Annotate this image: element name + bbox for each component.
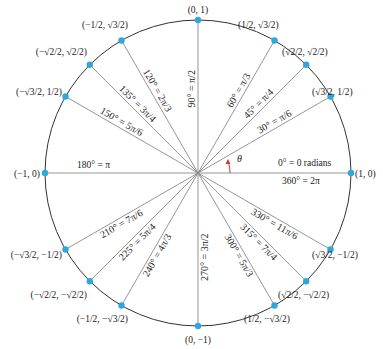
angle-label-45: 45° = π/4 [241,86,275,120]
point-270 [195,323,201,329]
point-210 [62,246,68,252]
coord-label-225: (−√2/2, −√2/2) [31,290,88,301]
point-225 [87,278,93,284]
coord-label-30: (√3/2, 1/2) [312,87,353,98]
ray-45 [198,65,306,173]
coord-label-300: (1/2, −√3/2) [244,314,290,325]
coord-label-270: (0, −1) [185,335,211,346]
point-45 [303,62,309,68]
point-0 [348,170,354,176]
coord-label-120: (−1/2, √3/2) [82,20,128,31]
label-0-degrees: 0° = 0 radians [278,158,332,168]
point-240 [118,302,124,308]
coord-label-240: (−1/2, −√3/2) [77,314,128,325]
unit-circle-diagram: 30° = π/645° = π/460° = π/390° = π/2120°… [0,0,383,349]
coord-label-0: (1, 0) [355,169,376,180]
coord-label-60: (1/2, √3/2) [238,20,279,31]
theta-label: θ [237,153,242,164]
coord-label-150: (−√3/2, 1/2) [16,87,62,98]
point-60 [271,37,277,43]
coord-label-180: (−1, 0) [14,169,40,180]
coord-label-90: (0, 1) [188,5,209,16]
point-180 [42,170,48,176]
ray-135 [90,65,198,173]
coord-label-210: (−√3/2, −1/2) [11,250,62,261]
point-315 [303,278,309,284]
theta-arrow-icon [226,159,231,173]
point-90 [195,17,201,23]
coord-label-135: (−√2/2, √2/2) [36,47,87,58]
point-300 [271,302,277,308]
coord-label-330: (√3/2, −1/2) [312,250,358,261]
coord-label-45: (√2/2, √2/2) [282,47,328,58]
angle-label-90: 90° = π/2 [186,70,197,107]
point-150 [62,93,68,99]
label-180-degrees: 180° = π [77,160,110,170]
angle-label-270: 270° = 3π/2 [199,233,210,280]
label-360-degrees: 360° = 2π [282,176,320,186]
point-135 [87,62,93,68]
point-120 [118,37,124,43]
coord-label-315: (√2/2, −√2/2) [278,290,329,301]
